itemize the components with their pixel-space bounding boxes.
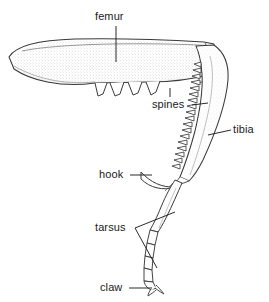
tarsus-group [144,180,182,290]
femur-spine-4 [146,81,160,95]
tarsus-segment-2 [147,230,158,245]
tarsus-pretarsus [144,281,156,290]
label-claw: claw [100,282,122,293]
femur-stipple [12,41,214,83]
label-femur: femur [95,11,124,22]
label-tibia: tibia [233,124,254,135]
label-spines: spines [152,99,184,110]
claw-left [148,289,156,296]
insect-leg-diagram [0,0,269,302]
tarsus-segment-5 [144,268,153,282]
femur-spine-1 [95,83,107,96]
femur-spine-2 [110,82,124,96]
label-tarsus: tarsus [95,222,126,233]
femur-group [9,39,216,96]
label-hook: hook [99,169,123,180]
claw-right [155,285,164,294]
femur-spine-3 [128,82,142,95]
diagram-page: femur spines tibia hook tarsus claw [0,0,269,302]
